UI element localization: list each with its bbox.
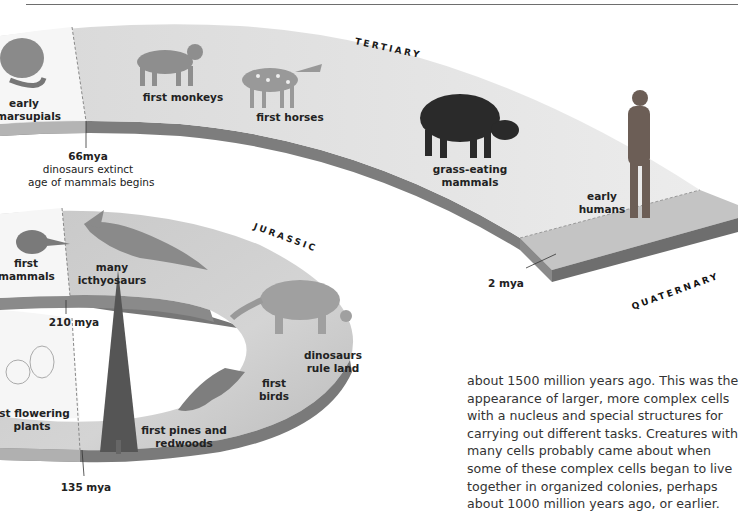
label-dinosaurs-rule-land: dinosaurs rule land — [298, 349, 368, 375]
label-many-icthyosaurs: many icthyosaurs — [72, 261, 152, 287]
label-first-flowering-plants: rst flowering plants — [0, 407, 72, 433]
marker-66mya: 66mya dinosaurs extinct age of mammals b… — [28, 150, 148, 189]
label-first-mammals: first mammals — [0, 257, 54, 283]
marker-210mya: 210 mya — [46, 316, 102, 329]
label-first-pines-redwoods: first pines and redwoods — [136, 424, 232, 450]
label-grass-eating-mammals: grass-eating mammals — [420, 163, 520, 189]
label-early-humans: early humans — [572, 190, 632, 216]
body-paragraph: about 1500 million years ago. This was t… — [467, 372, 741, 513]
label-early-marsupials: early marsupials — [0, 97, 52, 123]
label-first-horses: first horses — [240, 111, 340, 124]
marker-2mya: 2 mya — [484, 277, 528, 290]
label-first-monkeys: first monkeys — [123, 91, 243, 104]
label-first-birds: first birds — [252, 377, 296, 403]
marker-135mya: 135 mya — [58, 481, 114, 494]
